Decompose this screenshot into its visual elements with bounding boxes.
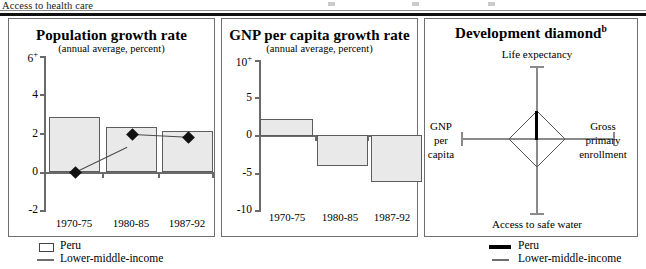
panel1-ylabel-0: 0: [14, 165, 38, 177]
artifact-mark-3: [488, 2, 495, 6]
legend-right-thick-swatch: [489, 245, 511, 249]
panel1-ylabel-4: 4: [14, 88, 38, 100]
panel2-xlabel-3: 1987-92: [362, 211, 422, 223]
diamond-label-enroll-line2: primary: [565, 134, 641, 148]
panel2-ylabel-5: 5: [222, 91, 252, 103]
panel1-xlabel-2: 1980-85: [101, 217, 161, 229]
panel2-ytick--5: [255, 173, 261, 175]
panel1-xlabel-3: 1987-92: [157, 217, 217, 229]
legend-left-bar-swatch: [39, 243, 54, 252]
panel1-ytick-4: [40, 94, 46, 96]
panel2-xlabel-1: 1970-75: [257, 211, 317, 223]
header-rule: [0, 13, 646, 16]
panel1-ylabel-6: 6+: [14, 49, 38, 64]
legend-right-thin-label: Lower-middle-income: [518, 252, 621, 264]
panel2-ylabel--5: -5: [222, 166, 252, 178]
panel1-xlabel-1: 1970-75: [44, 217, 104, 229]
panel1-ytick-6: [40, 56, 46, 58]
diamond-peru-life-expectancy-bar: [535, 111, 538, 140]
panel2-bar-1980-85: [317, 135, 368, 166]
panel-population-growth: Population growth rate (annual average, …: [8, 18, 215, 237]
panel2-bar-1987-92: [371, 135, 422, 182]
panel1-ytick-2: [40, 133, 46, 135]
panel2-plot: 10+ 5 0 -5 -10 1970-75 1980-85 1987-92: [222, 19, 417, 236]
legend-left-line-swatch: [37, 259, 54, 261]
panel1-ylabel-2: 2: [14, 127, 38, 139]
diamond-label-life-expectancy: Life expectancy: [457, 48, 617, 62]
diamond-label-enroll-line3: enrollment: [565, 148, 641, 162]
diamond-label-gnp-per-capita: GNP per capita: [419, 120, 463, 161]
artifact-mark-1: [328, 2, 335, 6]
artifact-mark-2: [412, 2, 419, 6]
panel1-plot: 6+ 4 2 0 -2 1970-75 1980-85 1987-92: [9, 19, 214, 236]
panel2-xlabel-2: 1980-85: [310, 211, 370, 223]
diamond-label-gnp-line2: per: [419, 134, 463, 148]
panel2-ytick-10: [255, 60, 261, 62]
diamond-label-gnp-line1: GNP: [419, 120, 463, 134]
legend-left-line-label: Lower-middle-income: [60, 252, 163, 264]
panel2-bar-1970-75: [260, 119, 313, 136]
diamond-label-gross-primary-enrollment: Gross primary enrollment: [565, 120, 641, 161]
figure-root: Access to health care Population growth …: [0, 0, 646, 269]
panel1-xtick-2: [158, 172, 160, 178]
panel1-ylabel--2: -2: [12, 203, 38, 215]
header-hairline: [0, 10, 646, 11]
panel-gnp-per-capita-growth: GNP per capita growth rate (annual avera…: [221, 18, 418, 237]
legend-left-bar-label: Peru: [60, 239, 81, 251]
panel1-xtick-1: [102, 172, 104, 178]
panel2-ytick-5: [255, 97, 261, 99]
panel-development-diamond: Development diamondb Life expectancy Acc…: [424, 18, 638, 237]
legend-right-thick-label: Peru: [518, 239, 539, 251]
diamond-label-gnp-line3: capita: [419, 148, 463, 162]
panel1-xtick-3: [212, 172, 214, 178]
panel2-ylabel-10: 10+: [222, 53, 252, 68]
diamond-label-access-to-safe-water: Access to safe water: [457, 218, 617, 232]
diamond-label-enroll-line1: Gross: [565, 120, 641, 134]
panel2-ylabel-0: 0: [222, 128, 252, 140]
legend-right-thin-swatch: [492, 259, 509, 261]
panel2-ylabel--10: -10: [222, 203, 252, 215]
panel3-plot: Life expectancy Access to safe water GNP…: [425, 19, 637, 236]
panel1-ytick--2: [40, 210, 46, 212]
